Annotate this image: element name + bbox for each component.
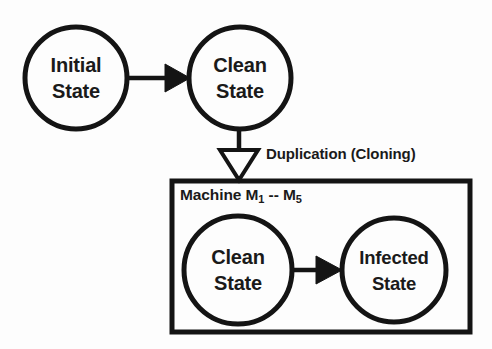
arrowhead-solid-initial-to-clean [165, 64, 190, 92]
arrowhead-hollow-duplication [220, 150, 258, 180]
node-infected-state-label-line1: Infected [359, 247, 428, 268]
node-clean-state-inner[interactable]: Clean State [184, 216, 292, 324]
node-infected-state-label-line2: State [372, 273, 416, 294]
node-initial-state-circle[interactable] [25, 27, 127, 129]
edge-clean-to-infected [292, 256, 342, 284]
node-initial-state-label-line2: State [52, 80, 100, 102]
node-clean-state-inner-label-line2: State [214, 272, 262, 294]
machine-group-label-prefix: Machine M [180, 186, 258, 203]
node-infected-state[interactable]: Infected State [342, 218, 446, 322]
machine-group-label: Machine M1 -- M5 [180, 186, 302, 205]
node-clean-state-top-label-line2: State [216, 80, 264, 102]
node-clean-state-top-circle[interactable] [189, 27, 291, 129]
node-initial-state-label-line1: Initial [51, 54, 102, 76]
machine-group-label-sub-to: 5 [296, 193, 302, 205]
arrowhead-solid-clean-to-infected [316, 256, 342, 284]
node-clean-state-top[interactable]: Clean State [189, 27, 291, 129]
node-infected-state-circle[interactable] [342, 218, 446, 322]
edge-initial-to-clean [128, 64, 190, 92]
node-clean-state-inner-circle[interactable] [184, 216, 292, 324]
machine-group-label-separator: -- M [264, 186, 295, 203]
diagram-canvas: Duplication (Cloning) Machine M1 -- M5 I… [0, 0, 492, 349]
state-diagram: Duplication (Cloning) Machine M1 -- M5 I… [0, 0, 492, 349]
node-clean-state-inner-label-line1: Clean [211, 246, 264, 268]
edge-label-duplication: Duplication (Cloning) [266, 145, 416, 162]
node-clean-state-top-label-line1: Clean [213, 54, 266, 76]
edge-clean-to-machine [220, 128, 258, 180]
node-initial-state[interactable]: Initial State [25, 27, 127, 129]
